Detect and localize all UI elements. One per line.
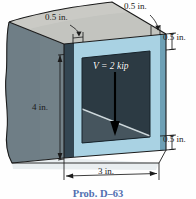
label-height-4in: 4 in. xyxy=(32,103,48,112)
label-thickness-right-bottom: 0.5 in. xyxy=(163,135,186,144)
label-thickness-top-left: 0.5 in. xyxy=(45,13,68,22)
label-width-3in: 3 in. xyxy=(98,167,114,176)
label-thickness-right-top: 0.5 in. xyxy=(163,33,186,42)
label-thickness-top-right: 0.5 in. xyxy=(124,2,147,11)
figure-container: 0.5 in. 0.5 in. 0.5 in. 0.5 in. 4 in. 3 … xyxy=(0,0,196,199)
figure-caption: Prob. D–63 xyxy=(0,188,196,199)
label-shear-force: V = 2 kip xyxy=(93,62,129,72)
front-frame-left-shade xyxy=(64,43,74,158)
